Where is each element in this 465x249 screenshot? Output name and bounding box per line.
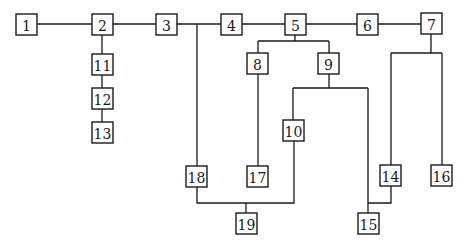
node-label: 17 [249,170,267,186]
node-boxes: 12345678910111213141516171819 [16,13,452,234]
node-label: 3 [162,18,171,34]
node-19: 19 [236,213,257,234]
node-1: 1 [16,14,37,35]
node-14: 14 [380,165,401,186]
node-label: 6 [363,18,372,34]
node-2: 2 [92,14,113,35]
node-13: 13 [92,122,113,143]
connector-line [197,141,294,203]
node-label: 15 [360,217,378,233]
node-label: 14 [382,169,400,185]
node-label: 2 [98,18,107,34]
node-label: 18 [188,170,206,186]
node-12: 12 [92,88,113,109]
connector-line [258,35,329,53]
node-label: 16 [433,169,451,185]
node-3: 3 [156,14,177,35]
node-label: 1 [22,18,31,34]
node-11: 11 [92,54,113,75]
node-label: 5 [291,18,300,34]
node-10: 10 [283,120,304,141]
node-label: 11 [94,58,112,74]
connector-line [368,186,391,203]
node-label: 10 [285,124,303,140]
node-7: 7 [421,13,442,34]
node-18: 18 [186,166,207,187]
node-label: 12 [94,92,112,108]
node-label: 8 [253,57,262,73]
node-label: 4 [227,18,236,34]
node-9: 9 [318,53,339,74]
connector-line [293,74,368,213]
node-label: 19 [238,217,256,233]
node-label: 7 [427,17,436,33]
node-label: 9 [324,57,333,73]
node-15: 15 [358,213,379,234]
node-17: 17 [247,166,268,187]
node-16: 16 [431,165,452,186]
node-5: 5 [285,14,306,35]
tree-diagram: 12345678910111213141516171819 [0,0,465,249]
node-6: 6 [357,14,378,35]
node-label: 13 [94,126,112,142]
node-8: 8 [247,53,268,74]
node-4: 4 [221,14,242,35]
connector-line [391,34,442,165]
